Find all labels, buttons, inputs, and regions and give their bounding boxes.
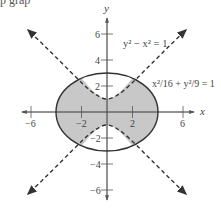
x-tick-label: −2 [76, 118, 87, 129]
ellipse-equation-label: x²/16 + y²/9 = 1 [152, 78, 215, 89]
y-axis-label: y [103, 2, 109, 14]
x-tick-label: −6 [25, 118, 36, 129]
arrow-icon [28, 189, 34, 195]
arrow-icon [28, 30, 34, 36]
y-tick-label: −4 [90, 159, 101, 170]
x-axis-label: x [199, 105, 205, 117]
x-tick-label: 6 [180, 118, 185, 129]
y-tick-label: −2 [90, 133, 101, 144]
y-tick-label: 6 [95, 29, 100, 40]
y-tick-label: −6 [90, 185, 101, 196]
arrow-icon [180, 30, 186, 36]
y-tick-label: 2 [95, 81, 100, 92]
x-tick-label: 2 [130, 118, 135, 129]
y-tick-label: 4 [95, 55, 100, 66]
hyperbola-equation-label: y² − x² = 1 [123, 38, 167, 49]
graph-figure: y x −6 −2 2 6 6 4 2 −2 −4 −6 y² − x² = 1… [0, 0, 221, 216]
arrow-icon [180, 189, 186, 195]
